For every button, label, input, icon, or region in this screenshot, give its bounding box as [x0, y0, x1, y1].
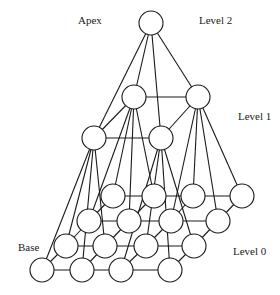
node-level0 [30, 258, 54, 282]
node-level0 [158, 258, 182, 282]
node-level0 [230, 184, 254, 208]
node-level0 [142, 184, 166, 208]
node-level0 [77, 209, 101, 233]
label-level-2: Level 2 [199, 14, 232, 26]
node-level0 [117, 209, 141, 233]
node-level1 [122, 85, 146, 109]
label-apex: Apex [78, 14, 102, 26]
edge-apex-level1 [94, 23, 151, 138]
label-level-0: Level 0 [233, 245, 267, 257]
node-level1 [149, 126, 173, 150]
node-level0 [134, 234, 158, 258]
node-level1 [82, 126, 106, 150]
node-level0 [159, 209, 183, 233]
node-level0 [101, 184, 125, 208]
node-level0 [109, 258, 133, 282]
node-level0 [206, 209, 230, 233]
edge-level1-level0 [82, 138, 94, 270]
edge-level1-level0 [134, 97, 154, 196]
edge-apex-level1 [151, 23, 198, 97]
node-level0 [70, 258, 94, 282]
node-level1 [186, 85, 210, 109]
label-base: Base [18, 241, 40, 253]
node-level0 [93, 234, 117, 258]
label-level-1: Level 1 [238, 110, 271, 122]
node-level0 [54, 234, 78, 258]
edge-level1-level0 [198, 97, 242, 196]
node-level0 [182, 234, 206, 258]
pyramid-diagram: Apex Level 2 Level 1 Base Level 0 [0, 0, 280, 295]
node-apex [139, 11, 163, 35]
edge-level1-level0 [193, 97, 198, 196]
edge-apex-level1 [151, 23, 161, 138]
node-level0 [181, 184, 205, 208]
